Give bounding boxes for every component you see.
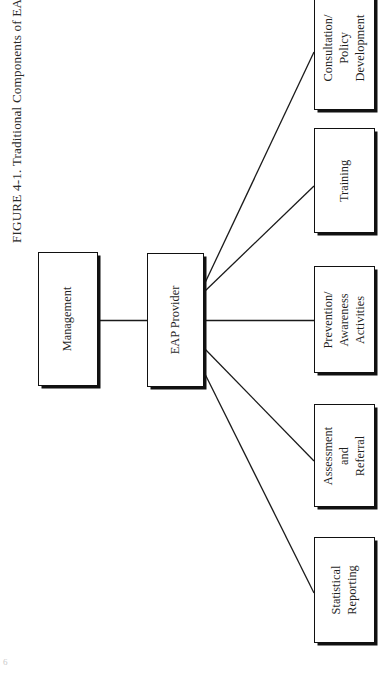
node-prevention-line-1: Prevention/	[321, 291, 337, 348]
edge-eap-provider-to-statistical	[204, 372, 314, 593]
node-consultation-line-3: Development	[352, 15, 368, 82]
node-eap-provider-label: EAP Provider	[168, 286, 184, 355]
node-prevention-line-3: Activities	[352, 291, 368, 348]
node-assessment-line-2: and	[337, 426, 353, 485]
node-consultation-policy-development[interactable]: Consultation/ Policy Development	[314, 0, 375, 110]
node-training-label: Training	[337, 159, 353, 201]
figure-caption: FIGURE 4-1. Traditional Components of EA…	[9, 13, 35, 243]
node-assessment-label: Assessment and Referral	[321, 426, 369, 485]
figure-page: FIGURE 4-1. Traditional Components of EA…	[0, 0, 383, 683]
page-folio: 6	[3, 657, 8, 667]
node-assessment-line-3: Referral	[352, 426, 368, 485]
node-prevention-awareness-activities[interactable]: Prevention/ Awareness Activities	[314, 266, 375, 373]
node-statistical-label: Statistical Reporting	[329, 565, 361, 615]
node-management[interactable]: Management	[38, 252, 98, 386]
edge-eap-provider-to-consultation	[204, 52, 314, 285]
node-consultation-line-1: Consultation/	[321, 15, 337, 82]
node-management-line-1: Management	[60, 287, 76, 352]
node-consultation-label: Consultation/ Policy Development	[321, 15, 369, 82]
edge-eap-provider-to-assessment	[204, 348, 314, 461]
node-eap-provider-line-1: EAP Provider	[168, 286, 184, 355]
node-management-label: Management	[60, 287, 76, 352]
node-training[interactable]: Training	[314, 128, 375, 233]
node-prevention-line-2: Awareness	[337, 291, 353, 348]
node-statistical-reporting[interactable]: Statistical Reporting	[314, 537, 375, 643]
node-prevention-label: Prevention/ Awareness Activities	[321, 291, 369, 348]
node-eap-provider[interactable]: EAP Provider	[147, 253, 204, 387]
node-statistical-line-2: Reporting	[345, 565, 361, 615]
node-training-line-1: Training	[337, 159, 353, 201]
node-consultation-line-2: Policy	[337, 15, 353, 82]
node-assessment-line-1: Assessment	[321, 426, 337, 485]
node-statistical-line-1: Statistical	[329, 565, 345, 615]
edge-eap-provider-to-training	[204, 186, 314, 292]
node-assessment-and-referral[interactable]: Assessment and Referral	[314, 404, 375, 507]
